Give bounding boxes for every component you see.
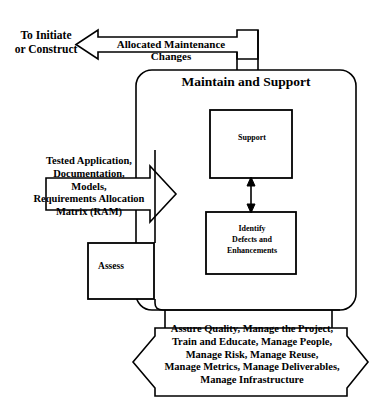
support-node-box xyxy=(210,110,292,178)
identify-defects-node-label: Identify Defects and Enhancements xyxy=(208,224,296,256)
external-ref-label: To Initiate or Construct xyxy=(2,28,90,57)
allocated-maintenance-changes-label: Allocated Maintenance Changes xyxy=(96,38,246,63)
tested-application-output-label: Tested Application, Documentation, Model… xyxy=(6,155,172,219)
assess-node-label: Assess xyxy=(78,261,144,272)
support-activities-banner-label: Assure Quality, Manage the Project, Trai… xyxy=(136,323,368,387)
support-node-label: Support xyxy=(212,134,292,143)
diagram-canvas: To Initiate or Construct Allocated Maint… xyxy=(0,0,378,406)
maintain-and-support-title: Maintain and Support xyxy=(146,74,346,89)
